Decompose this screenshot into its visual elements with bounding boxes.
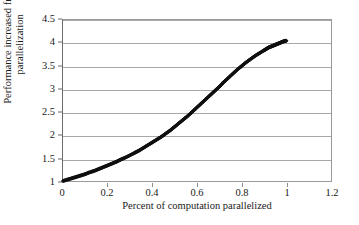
plot-area bbox=[62, 19, 332, 182]
data-series-speedup bbox=[63, 20, 331, 181]
x-tick-label: 0.2 bbox=[100, 188, 113, 199]
y-tick-label: 3.5 bbox=[42, 60, 55, 71]
y-tick-label: 1.5 bbox=[42, 153, 55, 164]
x-tick-label: 0.4 bbox=[145, 188, 158, 199]
x-tick-mark bbox=[107, 183, 108, 187]
y-axis-title: Performance increased fromparallelizatio… bbox=[2, 0, 27, 124]
x-tick-mark bbox=[242, 183, 243, 187]
y-tick-label: 3 bbox=[50, 84, 55, 95]
x-tick-label: 0 bbox=[59, 188, 64, 199]
x-tick-label: 1 bbox=[284, 188, 289, 199]
x-tick-mark bbox=[287, 183, 288, 187]
y-axis-title-line: Performance increased from bbox=[2, 0, 14, 124]
x-axis-title: Percent of computation parallelized bbox=[62, 201, 332, 212]
y-tick-label: 2.5 bbox=[42, 107, 55, 118]
x-tick-label: 0.6 bbox=[190, 188, 203, 199]
y-axis-title-line: parallelization bbox=[14, 0, 26, 124]
y-tick-label: 4 bbox=[50, 37, 55, 48]
y-tick-label: 4.5 bbox=[42, 14, 55, 25]
x-tick-mark bbox=[152, 183, 153, 187]
x-tick-label: 0.8 bbox=[235, 188, 248, 199]
x-tick-mark bbox=[197, 183, 198, 187]
x-tick-label: 1.2 bbox=[325, 188, 338, 199]
y-tick-label: 2 bbox=[50, 130, 55, 141]
chart-figure: 11.522.533.544.5 Performance increased f… bbox=[0, 0, 359, 225]
